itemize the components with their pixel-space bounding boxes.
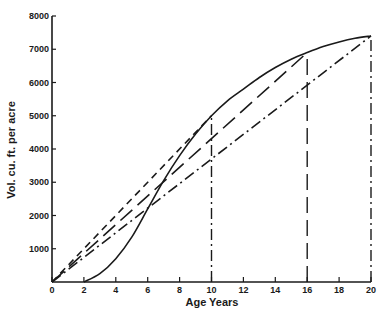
x-tick-label: 20 xyxy=(366,285,376,295)
x-tick-label: 16 xyxy=(302,285,312,295)
volume-age-chart: 1000200030004000500060007000800002468101… xyxy=(0,0,387,316)
x-axis-title: Age Years xyxy=(185,296,238,308)
x-tick-label: 14 xyxy=(270,285,280,295)
x-tick-label: 18 xyxy=(334,285,344,295)
series-0 xyxy=(84,36,371,282)
y-tick-label: 8000 xyxy=(29,11,49,21)
series-1 xyxy=(52,116,212,282)
y-tick-label: 4000 xyxy=(29,144,49,154)
x-tick-label: 4 xyxy=(113,285,118,295)
series-2 xyxy=(52,53,307,282)
x-tick-label: 10 xyxy=(206,285,216,295)
plot-area xyxy=(52,36,371,282)
y-tick-label: 2000 xyxy=(29,211,49,221)
y-axis-title: Vol. cu. ft. per acre xyxy=(5,101,17,199)
y-tick-label: 3000 xyxy=(29,177,49,187)
x-tick-label: 2 xyxy=(81,285,86,295)
x-tick-label: 12 xyxy=(238,285,248,295)
x-tick-label: 6 xyxy=(145,285,150,295)
y-tick-label: 6000 xyxy=(29,78,49,88)
x-tick-label: 8 xyxy=(177,285,182,295)
y-tick-label: 1000 xyxy=(29,244,49,254)
y-tick-label: 5000 xyxy=(29,111,49,121)
x-tick-label: 0 xyxy=(49,285,54,295)
y-tick-label: 7000 xyxy=(29,44,49,54)
